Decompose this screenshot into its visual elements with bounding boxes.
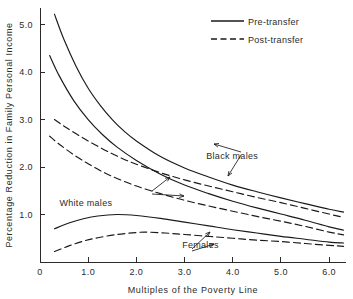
line-chart: 01.02.03.04.05.06.0 1.02.03.04.05.0 Mult… [0, 0, 353, 299]
x-tick-label: 0 [37, 267, 42, 277]
annotation-white-males: White males [59, 198, 112, 208]
x-tick-label: 1.0 [81, 267, 95, 277]
chart-background [0, 0, 353, 299]
y-tick-label: 3.0 [19, 115, 33, 125]
y-tick-label: 4.0 [19, 67, 33, 77]
x-tick-label: 6.0 [322, 267, 336, 277]
x-axis-title: Multiples of the Poverty Line [128, 285, 258, 295]
legend-label-post-transfer: Post-transfer [248, 35, 303, 45]
x-tick-label: 4.0 [226, 267, 240, 277]
y-tick-label: 5.0 [19, 20, 33, 30]
annotation-label-black-males: Black males [206, 151, 258, 161]
x-tick-label: 5.0 [274, 267, 288, 277]
y-tick-label: 1.0 [19, 210, 33, 220]
y-axis-title: Percentage Reduction in Family Personal … [4, 22, 14, 247]
x-tick-label: 2.0 [130, 267, 144, 277]
figure-container: 01.02.03.04.05.06.0 1.02.03.04.05.0 Mult… [0, 0, 353, 299]
x-tick-label: 3.0 [178, 267, 192, 277]
annotation-label-white-males: White males [59, 198, 112, 208]
legend-label-pre-transfer: Pre-transfer [248, 17, 299, 27]
y-tick-label: 2.0 [19, 162, 33, 172]
annotation-black-males: Black males [206, 151, 258, 161]
